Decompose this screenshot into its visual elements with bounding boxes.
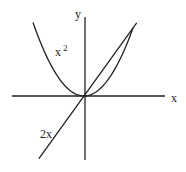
parabola-label-exponent: 2	[63, 43, 68, 53]
y-axis-label: y	[75, 7, 81, 21]
parabola-curve-x-squared	[33, 22, 133, 96]
line-2x	[39, 23, 137, 159]
parabola-label: x2	[55, 43, 68, 59]
x-axis-label: x	[171, 91, 177, 105]
function-plot: x y x2 2x	[0, 0, 186, 172]
line-label: 2x	[40, 127, 52, 141]
parabola-label-base: x	[55, 45, 61, 59]
